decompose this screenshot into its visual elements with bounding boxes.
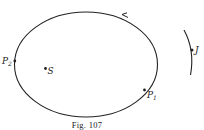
orbit-ellipse [15,12,158,117]
jupiter-orbit-arc [184,30,192,75]
direction-arrow-icon [122,13,128,18]
label-p2: P2 [1,56,12,67]
label-p1: P1 [146,90,157,101]
point-s [44,67,47,70]
figure-caption: Fig. 107 [72,120,103,130]
label-j: J [193,45,200,55]
point-j [191,49,194,52]
label-s: S [48,66,54,76]
point-p1 [143,89,146,92]
orbit-diagram: P2 S P1 J Fig. 107 [0,0,204,130]
point-p2 [13,60,16,63]
